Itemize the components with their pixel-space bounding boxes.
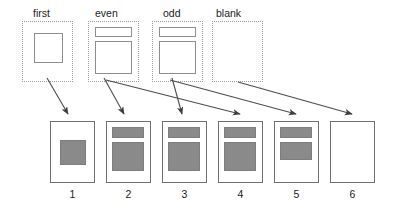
page-content-block-5-2 (280, 142, 312, 160)
template-body-frame-first (34, 33, 63, 63)
template-label-first: first (33, 7, 50, 19)
page-number-6: 6 (330, 188, 375, 200)
template-header-frame-odd (159, 27, 196, 37)
arrow-odd-to-3 (172, 78, 182, 114)
page-content-block-4-2 (224, 142, 256, 171)
page-content-block-4-1 (224, 127, 256, 138)
page-number-4: 4 (218, 188, 263, 200)
arrow-first-to-1 (47, 78, 68, 114)
page-number-1: 1 (50, 188, 95, 200)
page-content-block-2-1 (112, 127, 144, 138)
template-box-blank[interactable] (212, 21, 263, 82)
page-thumbnail-6[interactable] (330, 121, 375, 183)
template-label-blank: blank (216, 7, 241, 19)
diagram-canvas: firstevenoddblank 123456 (0, 0, 419, 210)
page-number-5: 5 (274, 188, 319, 200)
template-label-even: even (95, 7, 118, 19)
page-number-3: 3 (162, 188, 207, 200)
arrow-odd-to-5 (170, 80, 296, 114)
template-header-frame-even (95, 27, 132, 37)
arrow-even-to-2 (104, 78, 124, 114)
page-content-block-3-2 (168, 142, 200, 171)
arrow-blank-to-6 (238, 82, 352, 114)
page-number-2: 2 (106, 188, 151, 200)
template-body-frame-even (95, 41, 132, 74)
template-label-odd: odd (163, 7, 181, 19)
page-content-block-3-1 (168, 127, 200, 138)
page-content-block-5-1 (280, 127, 312, 138)
template-body-frame-odd (159, 41, 196, 74)
arrow-even-to-4 (106, 80, 240, 114)
page-content-block-1-1 (60, 140, 86, 165)
page-content-block-2-2 (112, 142, 144, 171)
